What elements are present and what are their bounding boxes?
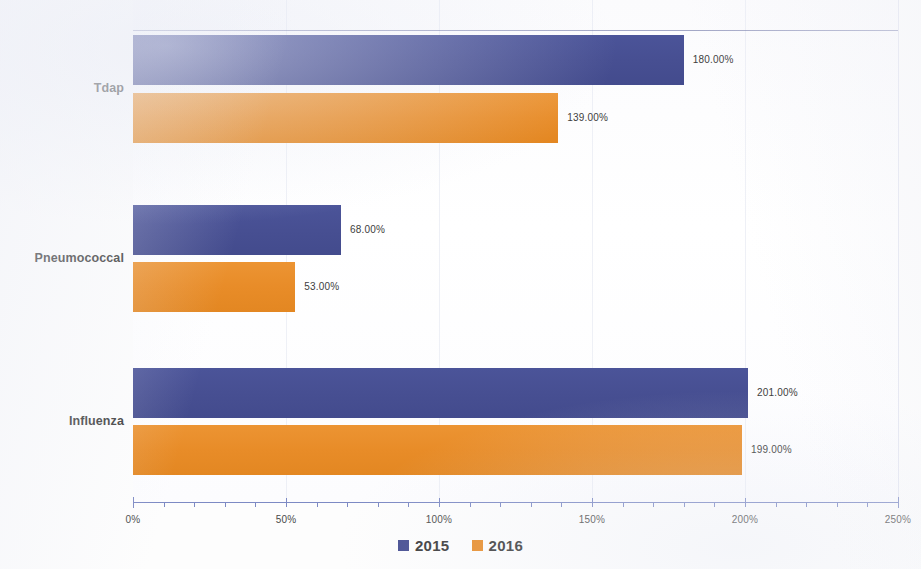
x-tick-210 — [776, 502, 777, 507]
bar-chart: 180.00%139.00%68.00%53.00%201.00%199.00%… — [0, 0, 921, 569]
category-label-pneumococcal: Pneumococcal — [0, 251, 124, 265]
x-tick-90 — [408, 502, 409, 507]
bar-pneumococcal-2016 — [133, 262, 295, 312]
x-tick-label-100: 100% — [426, 514, 452, 525]
chart-legend: 20152016 — [0, 538, 921, 553]
x-tick-label-200: 200% — [732, 514, 758, 525]
x-tick-label-50: 50% — [276, 514, 297, 525]
x-tick-230 — [837, 502, 838, 507]
plot-top-border — [133, 30, 898, 31]
bar-value-label-influenza-2015: 201.00% — [757, 388, 798, 398]
plot-area — [133, 0, 898, 502]
x-tick-label-150: 150% — [579, 514, 605, 525]
x-tick-60 — [317, 502, 318, 507]
x-tick-80 — [378, 502, 379, 507]
x-tick-120 — [500, 502, 501, 507]
x-tick-220 — [806, 502, 807, 507]
x-tick-140 — [561, 502, 562, 507]
legend-label-2015: 2015 — [415, 538, 450, 553]
x-tick-150 — [592, 498, 593, 507]
category-axis-labels: TdapPneumococcalInfluenza — [0, 0, 124, 502]
legend-swatch-2016 — [472, 540, 483, 551]
x-tick-250 — [898, 497, 899, 508]
x-tick-180 — [684, 502, 685, 507]
legend-item-2016[interactable]: 2016 — [472, 538, 524, 553]
x-tick-40 — [255, 502, 256, 507]
x-tick-10 — [164, 502, 165, 507]
bar-tdap-2016 — [133, 93, 558, 143]
gridline-200 — [745, 0, 746, 502]
x-tick-160 — [623, 502, 624, 507]
category-label-influenza: Influenza — [0, 414, 124, 428]
bar-value-label-influenza-2016: 199.00% — [751, 445, 792, 455]
x-tick-200 — [745, 498, 746, 507]
bar-value-label-pneumococcal-2016: 53.00% — [304, 282, 339, 292]
x-tick-label-0: 0% — [126, 514, 141, 525]
x-tick-130 — [531, 502, 532, 507]
x-tick-190 — [714, 502, 715, 507]
bar-pneumococcal-2015 — [133, 205, 341, 255]
bar-value-label-tdap-2016: 139.00% — [567, 113, 608, 123]
x-tick-240 — [867, 502, 868, 507]
x-tick-170 — [653, 502, 654, 507]
x-tick-20 — [194, 502, 195, 507]
x-tick-30 — [225, 502, 226, 507]
x-tick-100 — [439, 498, 440, 507]
x-tick-label-250: 250% — [885, 514, 911, 525]
x-tick-0 — [133, 497, 134, 508]
x-tick-110 — [470, 502, 471, 507]
category-label-tdap: Tdap — [0, 81, 124, 95]
bar-influenza-2016 — [133, 425, 742, 475]
bar-value-label-tdap-2015: 180.00% — [693, 55, 734, 65]
x-tick-50 — [286, 498, 287, 507]
bar-tdap-2015 — [133, 35, 684, 85]
legend-label-2016: 2016 — [489, 538, 524, 553]
x-tick-70 — [347, 502, 348, 507]
bar-value-label-pneumococcal-2015: 68.00% — [350, 225, 385, 235]
bar-influenza-2015 — [133, 368, 748, 418]
x-axis-line — [133, 502, 898, 503]
gridline-250 — [898, 0, 899, 502]
legend-swatch-2015 — [398, 540, 409, 551]
legend-item-2015[interactable]: 2015 — [398, 538, 450, 553]
